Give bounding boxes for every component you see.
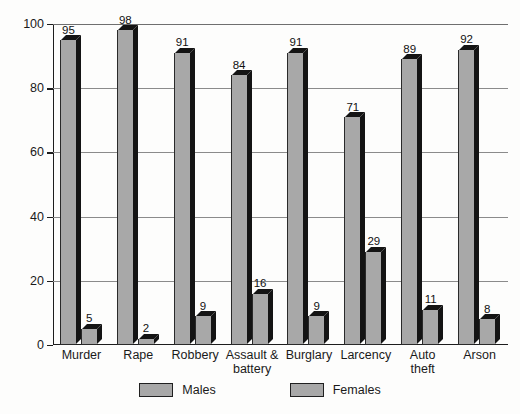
bar-body: [60, 40, 76, 345]
y-tick-label-20: 20: [30, 275, 44, 288]
bar-value-label: 89: [403, 44, 416, 56]
bar-females-assault---battery[interactable]: 16: [252, 294, 268, 345]
bar-group: 928: [451, 24, 508, 345]
bar-males-robbery[interactable]: 91: [174, 53, 190, 345]
y-tick-label-80: 80: [30, 82, 44, 95]
bar-group: 919: [281, 24, 338, 345]
legend: MalesFemales: [0, 383, 520, 397]
bar-body: [401, 59, 417, 345]
bar-value-label: 29: [367, 236, 380, 248]
bar-body: [308, 316, 324, 345]
bar-body: [458, 50, 474, 345]
bar-females-larcency[interactable]: 29: [365, 252, 381, 345]
bar-value-label: 9: [200, 301, 206, 313]
bar-group: 919: [167, 24, 224, 345]
bar-males-auto-theft[interactable]: 89: [401, 59, 417, 345]
bar-value-label: 2: [143, 323, 149, 335]
bar-body: [138, 339, 154, 345]
bar-value-label: 91: [176, 37, 189, 49]
x-label-arson: Arson: [451, 349, 508, 363]
x-label-auto-theft: Auto theft: [394, 349, 451, 376]
bar-chart: 020406080100 955982919841691971298911928…: [0, 0, 520, 414]
bar-females-arson[interactable]: 8: [479, 319, 495, 345]
x-label-murder: Murder: [53, 349, 110, 363]
bar-body: [174, 53, 190, 345]
x-label-larcency: Larcency: [337, 349, 394, 363]
bar-group: 982: [110, 24, 167, 345]
bar-value-label: 9: [313, 301, 319, 313]
bar-value-label: 16: [254, 278, 267, 290]
y-tick-label-60: 60: [30, 146, 44, 159]
y-tick-label-0: 0: [37, 339, 44, 352]
legend-item-females[interactable]: Females: [290, 383, 381, 397]
bar-females-murder[interactable]: 5: [81, 329, 97, 345]
bar-males-murder[interactable]: 95: [60, 40, 76, 345]
bar-body: [252, 294, 268, 345]
legend-item-males[interactable]: Males: [139, 383, 215, 397]
bar-body: [479, 319, 495, 345]
bar-group: 7129: [337, 24, 394, 345]
bar-females-rape[interactable]: 2: [138, 339, 154, 345]
x-label-assault---battery: Assault & battery: [224, 349, 281, 376]
legend-swatch-females: [290, 383, 324, 397]
bar-body: [117, 30, 133, 345]
bar-value-label: 71: [346, 102, 359, 114]
legend-swatch-males: [139, 383, 173, 397]
tick-mark-0: [47, 345, 53, 346]
bar-body: [81, 329, 97, 345]
bar-value-label: 91: [290, 37, 303, 49]
bar-group: 8911: [394, 24, 451, 345]
bar-body: [231, 75, 247, 345]
x-label-burglary: Burglary: [281, 349, 338, 363]
bar-males-assault---battery[interactable]: 84: [231, 75, 247, 345]
plot-area: 020406080100 955982919841691971298911928: [53, 24, 508, 345]
bar-males-burglary[interactable]: 91: [287, 53, 303, 345]
bar-value-label: 8: [484, 304, 490, 316]
bar-body: [287, 53, 303, 345]
bar-body: [365, 252, 381, 345]
bar-females-robbery[interactable]: 9: [195, 316, 211, 345]
legend-label: Males: [182, 384, 215, 397]
bar-value-label: 11: [425, 294, 437, 306]
bar-value-label: 84: [233, 60, 246, 72]
legend-label: Females: [333, 384, 381, 397]
x-label-rape: Rape: [110, 349, 167, 363]
bar-group: 955: [53, 24, 110, 345]
bar-females-burglary[interactable]: 9: [308, 316, 324, 345]
bar-body: [344, 117, 360, 345]
bar-males-arson[interactable]: 92: [458, 50, 474, 345]
bar-value-label: 92: [460, 34, 473, 46]
x-label-robbery: Robbery: [167, 349, 224, 363]
bar-body: [422, 310, 438, 345]
bar-value-label: 98: [119, 15, 132, 27]
bar-group: 8416: [224, 24, 281, 345]
bar-males-larcency[interactable]: 71: [344, 117, 360, 345]
bar-value-label: 95: [62, 25, 75, 37]
y-tick-label-100: 100: [23, 18, 44, 31]
bar-males-rape[interactable]: 98: [117, 30, 133, 345]
bar-value-label: 5: [86, 313, 92, 325]
y-tick-label-40: 40: [30, 210, 44, 223]
bar-body: [195, 316, 211, 345]
bar-females-auto-theft[interactable]: 11: [422, 310, 438, 345]
